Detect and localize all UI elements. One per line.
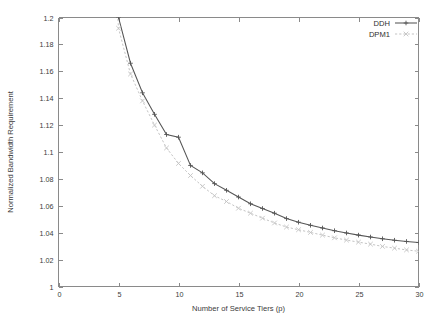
x-tick-label: 20 [296,290,304,299]
y-tick-label: 1.12 [40,121,54,130]
y-tick-label: 1.06 [40,202,54,211]
x-tick-label: 0 [58,290,62,299]
y-tick-label: 1.02 [40,256,54,265]
x-axis-title: Number of Service Tiers (p) [192,304,285,313]
x-tick-label: 10 [176,290,184,299]
y-tick-label: 1.08 [40,175,54,184]
legend-label-dpm1: DPM1 [369,30,390,39]
x-tick-label: 15 [236,290,244,299]
x-tick-label: 30 [416,290,424,299]
y-axis-title: Normalized Bandwidth Requirement [6,90,15,212]
y-tick-label: 1.16 [40,67,54,76]
chart-canvas: 11.021.041.061.081.11.121.141.161.181.20… [0,0,434,324]
x-tick-label: 5 [118,290,122,299]
x-tick-label: 25 [356,290,364,299]
legend-label-ddh: DDH [374,19,390,28]
y-tick-label: 1.14 [40,94,54,103]
chart-figure: 11.021.041.061.081.11.121.141.161.181.20… [0,0,434,324]
y-tick-label: 1.2 [44,14,54,23]
y-tick-label: 1.04 [40,229,54,238]
y-tick-label: 1.18 [40,40,54,49]
y-tick-label: 1.1 [44,148,54,157]
y-tick-label: 1 [50,283,54,292]
